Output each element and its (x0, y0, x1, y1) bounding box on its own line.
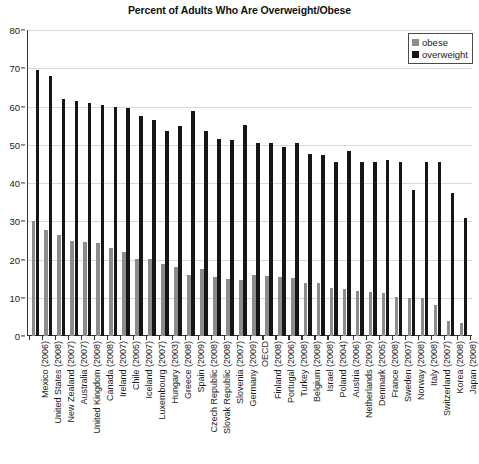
bar-overweight[interactable] (36, 70, 40, 336)
bar-group[interactable] (69, 30, 82, 336)
bar-overweight[interactable] (464, 218, 468, 336)
bar-obese[interactable] (213, 277, 217, 336)
bar-group[interactable] (147, 30, 160, 336)
bar-group[interactable] (95, 30, 108, 336)
bar-obese[interactable] (187, 275, 191, 336)
bar-obese[interactable] (96, 243, 100, 336)
bar-overweight[interactable] (412, 190, 416, 336)
bar-group[interactable] (276, 30, 289, 336)
bar-overweight[interactable] (217, 139, 221, 336)
bar-obese[interactable] (44, 230, 48, 336)
bar-group[interactable] (445, 30, 458, 336)
bar-group[interactable] (43, 30, 56, 336)
bar-obese[interactable] (161, 264, 165, 336)
bar-group[interactable] (328, 30, 341, 336)
legend-item-overweight[interactable]: overweight (412, 48, 468, 60)
bar-overweight[interactable] (62, 99, 66, 336)
bar-group[interactable] (173, 30, 186, 336)
bar-overweight[interactable] (308, 154, 312, 336)
bar-overweight[interactable] (334, 162, 338, 336)
bar-overweight[interactable] (204, 131, 208, 336)
bar-overweight[interactable] (178, 126, 182, 336)
bar-obese[interactable] (278, 277, 282, 336)
bar-group[interactable] (354, 30, 367, 336)
bar-obese[interactable] (408, 298, 412, 336)
bar-group[interactable] (108, 30, 121, 336)
bar-overweight[interactable] (347, 151, 351, 337)
bar-group[interactable] (199, 30, 212, 336)
bar-group[interactable] (458, 30, 471, 336)
bar-group[interactable] (289, 30, 302, 336)
bar-overweight[interactable] (438, 162, 442, 336)
bar-obese[interactable] (304, 283, 308, 336)
bar-group[interactable] (315, 30, 328, 336)
bar-group[interactable] (341, 30, 354, 336)
bar-overweight[interactable] (230, 140, 234, 336)
bar-overweight[interactable] (451, 193, 455, 336)
bar-group[interactable] (393, 30, 406, 336)
bar-group[interactable] (56, 30, 69, 336)
bar-overweight[interactable] (101, 105, 105, 336)
bar-overweight[interactable] (49, 76, 53, 336)
bar-group[interactable] (30, 30, 43, 336)
bar-group[interactable] (134, 30, 147, 336)
bar-obese[interactable] (382, 293, 386, 336)
bar-obese[interactable] (239, 280, 243, 336)
bar-obese[interactable] (265, 276, 269, 336)
bar-obese[interactable] (356, 291, 360, 336)
legend-item-obese[interactable]: obese (412, 36, 468, 48)
bar-overweight[interactable] (386, 160, 390, 336)
bar-overweight[interactable] (373, 162, 377, 336)
bar-group[interactable] (367, 30, 380, 336)
bar-group[interactable] (160, 30, 173, 336)
bar-obese[interactable] (135, 259, 139, 336)
bar-obese[interactable] (330, 288, 334, 336)
bar-overweight[interactable] (243, 125, 247, 336)
bar-overweight[interactable] (191, 111, 195, 336)
bar-obese[interactable] (57, 235, 61, 336)
bar-overweight[interactable] (126, 108, 130, 336)
bar-obese[interactable] (369, 292, 373, 336)
bar-overweight[interactable] (425, 162, 429, 336)
bar-obese[interactable] (343, 289, 347, 336)
bar-obese[interactable] (83, 242, 87, 336)
bar-overweight[interactable] (139, 116, 143, 336)
bar-overweight[interactable] (114, 107, 118, 337)
bar-overweight[interactable] (152, 120, 156, 336)
bar-group[interactable] (406, 30, 419, 336)
bar-obese[interactable] (395, 297, 399, 336)
bar-group[interactable] (302, 30, 315, 336)
bar-overweight[interactable] (75, 101, 79, 336)
bar-group[interactable] (251, 30, 264, 336)
bar-overweight[interactable] (165, 131, 169, 336)
bar-obese[interactable] (200, 269, 204, 336)
bar-overweight[interactable] (321, 155, 325, 336)
bar-obese[interactable] (70, 241, 74, 336)
bar-group[interactable] (238, 30, 251, 336)
bar-group[interactable] (82, 30, 95, 336)
bar-overweight[interactable] (256, 143, 260, 336)
bar-group[interactable] (263, 30, 276, 336)
bar-group[interactable] (225, 30, 238, 336)
bar-obese[interactable] (460, 323, 464, 336)
bar-overweight[interactable] (282, 147, 286, 336)
bar-overweight[interactable] (295, 143, 299, 336)
bar-overweight[interactable] (360, 162, 364, 336)
bar-obese[interactable] (291, 278, 295, 336)
bar-obese[interactable] (122, 252, 126, 336)
bar-obese[interactable] (447, 321, 451, 336)
bar-obese[interactable] (32, 221, 36, 336)
bar-group[interactable] (212, 30, 225, 336)
bar-group[interactable] (186, 30, 199, 336)
bar-obese[interactable] (421, 298, 425, 336)
bar-obese[interactable] (434, 305, 438, 336)
bar-overweight[interactable] (88, 103, 92, 336)
bar-overweight[interactable] (269, 143, 273, 336)
bar-overweight[interactable] (399, 162, 403, 336)
bar-obese[interactable] (317, 283, 321, 336)
bar-obese[interactable] (109, 248, 113, 336)
bar-obese[interactable] (226, 279, 230, 336)
bar-group[interactable] (380, 30, 393, 336)
bar-obese[interactable] (174, 267, 178, 336)
bar-group[interactable] (121, 30, 134, 336)
